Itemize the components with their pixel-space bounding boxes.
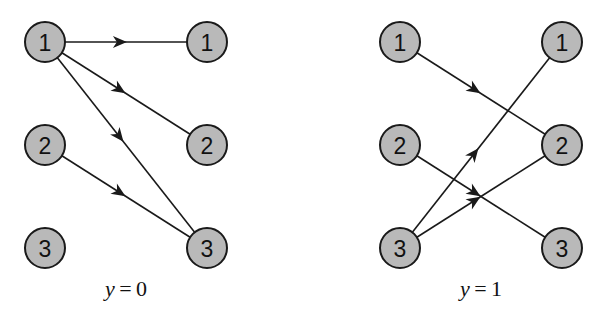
node-right-2: 2 [187, 125, 227, 165]
edge-0-1-to-2 [62, 53, 190, 135]
arrowhead-icon [110, 81, 128, 99]
svg-text:1: 1 [556, 30, 569, 56]
node-left-1: 1 [25, 22, 65, 62]
arrowhead-icon [465, 145, 483, 163]
svg-text:1: 1 [201, 30, 214, 56]
node-left-3: 3 [25, 228, 65, 268]
arrowhead-icon [465, 81, 483, 99]
svg-text:3: 3 [556, 236, 569, 262]
svg-text:2: 2 [556, 133, 569, 159]
svg-text:2: 2 [394, 133, 407, 159]
panel-caption: y = 1 [458, 276, 502, 301]
node-right-1: 1 [542, 22, 582, 62]
arrowhead-icon [110, 127, 128, 145]
svg-text:3: 3 [39, 236, 52, 262]
edge-0-1-to-3 [57, 58, 194, 233]
edges-layer [57, 36, 549, 237]
panel-caption: y = 0 [103, 276, 147, 301]
node-right-1: 1 [187, 22, 227, 62]
edge-1-1-to-2 [417, 53, 545, 135]
arrowhead-icon [110, 184, 128, 202]
node-right-3: 3 [187, 228, 227, 268]
svg-text:3: 3 [201, 236, 214, 262]
node-right-2: 2 [542, 125, 582, 165]
svg-text:1: 1 [39, 30, 52, 56]
node-left-2: 2 [25, 125, 65, 165]
svg-text:2: 2 [39, 133, 52, 159]
node-left-1: 1 [380, 22, 420, 62]
node-left-2: 2 [380, 125, 420, 165]
svg-text:2: 2 [201, 133, 214, 159]
nodes-layer: 123123123123 [25, 22, 582, 268]
bipartite-transition-diagram: 123123123123 y = 0y = 1 [0, 0, 611, 326]
edge-0-2-to-3 [62, 156, 190, 238]
captions-layer: y = 0y = 1 [103, 276, 502, 301]
edge-1-3-to-1 [412, 58, 549, 233]
svg-text:1: 1 [394, 30, 407, 56]
svg-text:3: 3 [394, 236, 407, 262]
node-left-3: 3 [380, 228, 420, 268]
node-right-3: 3 [542, 228, 582, 268]
